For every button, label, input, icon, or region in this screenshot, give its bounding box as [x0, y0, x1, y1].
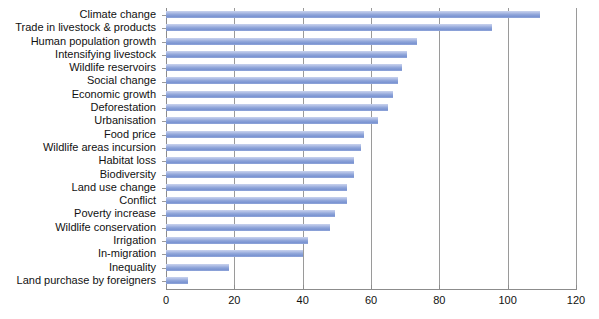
- category-axis: Climate changeTrade in livestock & produ…: [0, 8, 160, 287]
- category-tick: [162, 228, 166, 229]
- category-tick: [162, 215, 166, 216]
- category-tick: [162, 148, 166, 149]
- category-label: Land purchase by foreigners: [0, 274, 160, 287]
- category-tick: [162, 241, 166, 242]
- category-label: Poverty increase: [0, 207, 160, 220]
- bar: [166, 237, 308, 244]
- bar-row: [166, 181, 576, 194]
- bar-row: [166, 194, 576, 207]
- category-label: Land use change: [0, 181, 160, 194]
- category-label: Social change: [0, 74, 160, 87]
- category-tick: [162, 55, 166, 56]
- category-tick: [162, 28, 166, 29]
- bar: [166, 91, 393, 98]
- category-tick: [162, 68, 166, 69]
- bar: [166, 11, 540, 18]
- bar-row: [166, 101, 576, 114]
- bar-row: [166, 114, 576, 127]
- bar-row: [166, 8, 576, 21]
- value-axis-tick-label: 20: [214, 294, 254, 306]
- category-label: Urbanisation: [0, 114, 160, 127]
- value-axis-tick-label: 0: [146, 294, 186, 306]
- bar: [166, 77, 398, 84]
- category-label: Economic growth: [0, 88, 160, 101]
- bar: [166, 104, 388, 111]
- category-label: Biodiversity: [0, 168, 160, 181]
- category-tick: [162, 254, 166, 255]
- category-tick: [162, 95, 166, 96]
- value-axis-tick: [234, 285, 235, 290]
- bar: [166, 157, 354, 164]
- bar: [166, 24, 492, 31]
- bar: [166, 51, 407, 58]
- bar-series: [166, 8, 576, 289]
- category-tick: [162, 15, 166, 16]
- category-tick: [162, 42, 166, 43]
- bar: [166, 184, 347, 191]
- category-label: Wildlife reservoirs: [0, 61, 160, 74]
- bar: [166, 277, 188, 284]
- value-axis-tick-label: 80: [419, 294, 459, 306]
- bar-row: [166, 168, 576, 181]
- bar: [166, 171, 354, 178]
- bar-row: [166, 261, 576, 274]
- bar-row: [166, 61, 576, 74]
- category-label: Intensifying livestock: [0, 48, 160, 61]
- value-axis-tick: [371, 285, 372, 290]
- category-tick: [162, 268, 166, 269]
- category-label: Trade in livestock & products: [0, 21, 160, 34]
- plot-area: [166, 8, 576, 289]
- bar-row: [166, 128, 576, 141]
- category-tick: [162, 108, 166, 109]
- value-axis-tick: [303, 285, 304, 290]
- category-label: Human population growth: [0, 35, 160, 48]
- category-label: Wildlife areas incursion: [0, 141, 160, 154]
- value-axis-tick-label: 100: [488, 294, 528, 306]
- value-axis-tick-label: 120: [556, 294, 596, 306]
- horizontal-bar-chart: Climate changeTrade in livestock & produ…: [0, 0, 599, 319]
- gridline: [576, 8, 577, 289]
- bar: [166, 64, 402, 71]
- category-tick: [162, 161, 166, 162]
- bar-row: [166, 48, 576, 61]
- bar-row: [166, 21, 576, 34]
- bar: [166, 250, 303, 257]
- value-axis-tick: [166, 285, 167, 290]
- bar: [166, 144, 361, 151]
- bar: [166, 224, 330, 231]
- category-label: Food price: [0, 128, 160, 141]
- bar-row: [166, 234, 576, 247]
- category-tick: [162, 188, 166, 189]
- bar: [166, 117, 378, 124]
- category-tick: [162, 135, 166, 136]
- category-tick: [162, 121, 166, 122]
- bar: [166, 210, 335, 217]
- category-label: In-migration: [0, 247, 160, 260]
- value-axis-tick: [576, 285, 577, 290]
- bar-row: [166, 207, 576, 220]
- bar-row: [166, 35, 576, 48]
- category-tick: [162, 201, 166, 202]
- category-label: Habitat loss: [0, 154, 160, 167]
- category-label: Irrigation: [0, 234, 160, 247]
- bar: [166, 131, 364, 138]
- category-label: Inequality: [0, 261, 160, 274]
- value-axis-tick-label: 60: [351, 294, 391, 306]
- value-axis-tick-label: 40: [283, 294, 323, 306]
- bar: [166, 38, 417, 45]
- category-tick: [162, 175, 166, 176]
- category-tick: [162, 281, 166, 282]
- category-label: Conflict: [0, 194, 160, 207]
- value-axis-tick: [508, 285, 509, 290]
- category-tick: [162, 82, 166, 83]
- bar-row: [166, 221, 576, 234]
- value-axis-tick: [439, 285, 440, 290]
- bar-row: [166, 141, 576, 154]
- bar-row: [166, 247, 576, 260]
- bar-row: [166, 88, 576, 101]
- bar: [166, 264, 229, 271]
- category-label: Wildlife conservation: [0, 221, 160, 234]
- bar: [166, 197, 347, 204]
- bar-row: [166, 74, 576, 87]
- category-label: Deforestation: [0, 101, 160, 114]
